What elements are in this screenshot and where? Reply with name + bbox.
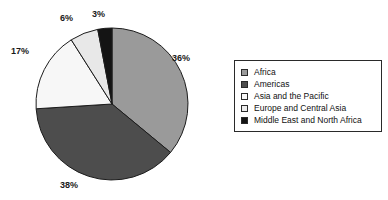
legend-label-asia-and-the-pacific: Asia and the Pacific: [254, 90, 329, 102]
legend-swatch-icon-americas: [241, 81, 248, 88]
slice-label-asia-and-the-pacific: 17%: [11, 46, 29, 56]
legend-label-europe-and-central-asia: Europe and Central Asia: [254, 102, 346, 114]
pie-slices-group: [36, 28, 188, 180]
legend-swatch-icon-africa: [241, 69, 248, 76]
legend-item-middle-east-and-north-africa: Middle East and North Africa: [241, 114, 375, 126]
legend-label-africa: Africa: [254, 66, 276, 78]
legend-item-europe-and-central-asia: Europe and Central Asia: [241, 102, 375, 114]
slice-label-middle-east-and-north-africa: 3%: [92, 9, 105, 19]
slice-label-africa: 36%: [172, 53, 190, 63]
slice-label-europe-and-central-asia: 6%: [60, 13, 73, 23]
legend-item-africa: Africa: [241, 66, 375, 78]
legend-swatch-icon-middle-east-and-north-africa: [241, 117, 248, 124]
legend-swatch-icon-asia-and-the-pacific: [241, 93, 248, 100]
chart-legend: Africa Americas Asia and the Pacific Eur…: [234, 60, 382, 132]
legend-swatch-icon-europe-and-central-asia: [241, 105, 248, 112]
legend-item-americas: Americas: [241, 78, 375, 90]
legend-item-asia-and-the-pacific: Asia and the Pacific: [241, 90, 375, 102]
legend-label-middle-east-and-north-africa: Middle East and North Africa: [254, 114, 362, 126]
pie-chart-svg: [0, 0, 225, 200]
slice-label-americas: 38%: [60, 180, 78, 190]
legend-label-americas: Americas: [254, 78, 289, 90]
pie-chart-figure: 36% 38% 17% 6% 3%: [0, 0, 225, 200]
